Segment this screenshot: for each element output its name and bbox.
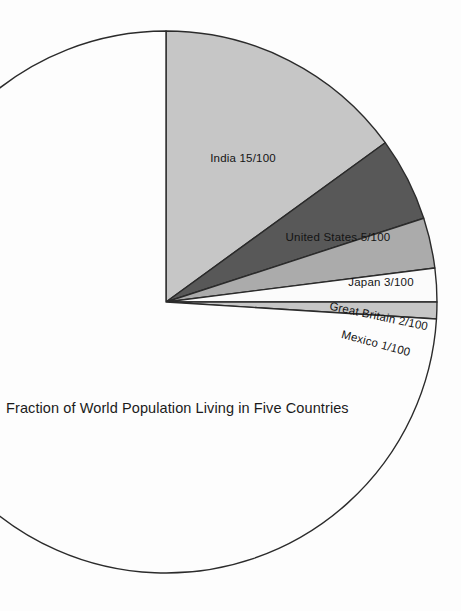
pie-chart-svg: India 15/100United States 5/100Japan 3/1… [0, 0, 461, 611]
pie-slice-label: United States 5/100 [286, 231, 391, 243]
pie-slice-label: Japan 3/100 [348, 276, 414, 288]
pie-slice-label: India 15/100 [210, 152, 276, 164]
pie-chart-figure: India 15/100United States 5/100Japan 3/1… [0, 0, 461, 611]
pie-slices-group [0, 31, 437, 573]
figure-caption: Fraction of World Population Living in F… [6, 400, 426, 416]
